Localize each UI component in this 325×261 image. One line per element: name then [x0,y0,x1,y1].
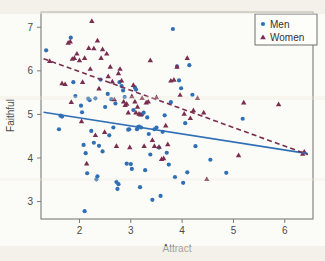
data-point-men [134,87,138,91]
data-point-men [84,151,88,155]
data-point-men [167,162,171,166]
legend-label-men[interactable]: Men [270,19,289,30]
y-tick-label: 4 [27,153,33,164]
data-point-men [44,48,48,52]
data-point-men [208,158,212,162]
data-point-men [148,152,152,156]
data-point-men [147,132,151,136]
scatter-plot: 2345634567AttractFaithful MenWomen [0,0,325,261]
data-point-men [165,151,169,155]
data-point-men [131,108,135,112]
data-point-men [100,149,104,153]
data-point-men [97,144,101,148]
data-point-men [183,121,187,125]
data-point-men [82,143,86,147]
data-point-men [145,115,149,119]
data-point-men [111,125,115,129]
data-point-men [173,175,177,179]
data-point-men [138,185,142,189]
legend-marker-men [261,22,265,26]
y-tick-label: 5 [27,109,33,120]
chart-legend[interactable]: MenWomen [255,14,317,45]
data-point-men [106,92,110,96]
data-point-men [193,144,197,148]
data-point-men [107,133,111,137]
data-point-men [185,170,189,174]
data-point-men [177,78,181,82]
data-point-men [241,117,245,121]
data-point-men [127,127,131,131]
data-point-men [187,63,191,67]
data-point-men [224,171,228,175]
data-point-men [190,93,194,97]
y-axis-title: Faithful [5,99,16,132]
data-point-men [143,168,147,172]
y-tick-label: 6 [27,65,33,76]
data-point-men [129,162,133,166]
y-tick-label: 7 [27,22,33,33]
data-point-men [125,162,129,166]
data-point-men [89,129,93,133]
data-point-men [79,104,83,108]
data-point-men [95,174,99,178]
data-point-men [69,36,73,40]
data-point-men [57,127,61,131]
data-point-men [115,187,119,191]
data-point-men [88,98,92,102]
x-tick-label: 3 [128,225,134,236]
data-point-men [171,27,175,31]
data-point-men [80,110,84,114]
y-tick-label: 3 [27,196,33,207]
legend-label-women[interactable]: Women [270,32,304,43]
data-point-men [71,80,75,84]
data-point-men [116,182,120,186]
data-point-men [121,88,125,92]
x-axis-title: Attract [163,243,192,254]
data-point-men [85,171,89,175]
x-tick-label: 2 [77,225,83,236]
x-tick-label: 5 [231,225,237,236]
data-point-men [142,111,146,115]
data-point-men [158,194,162,198]
data-point-men [83,209,87,213]
x-tick-label: 6 [282,225,288,236]
data-point-men [92,141,96,145]
data-point-men [73,94,77,98]
data-point-men [103,105,107,109]
data-point-men [130,167,134,171]
data-point-men [181,181,185,185]
data-point-men [123,95,127,99]
data-point-men [150,198,154,202]
figure-canvas: 2345634567AttractFaithful MenWomen [0,0,325,261]
data-point-men [179,86,183,90]
data-point-men [93,96,97,100]
data-point-men [163,113,167,117]
x-tick-label: 4 [179,225,185,236]
data-point-men [113,101,117,105]
